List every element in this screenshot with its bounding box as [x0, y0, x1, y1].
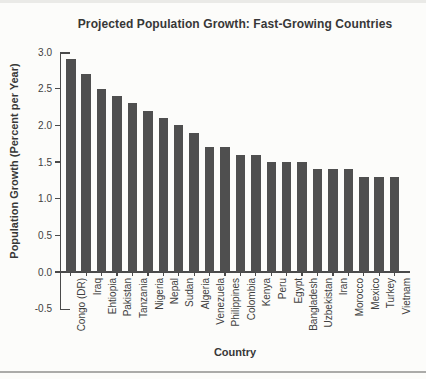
x-tick	[379, 273, 380, 276]
bar	[174, 125, 184, 272]
x-tick-label: Congo (DR)	[76, 278, 87, 331]
x-tick-label: Turkey	[385, 278, 396, 308]
x-tick	[116, 273, 117, 276]
bar	[159, 118, 169, 272]
y-tick-label: -0.5	[18, 303, 52, 314]
bar	[220, 147, 230, 272]
x-tick	[194, 273, 195, 276]
y-tick-label: 2.5	[18, 83, 52, 94]
bar	[236, 155, 246, 272]
x-tick	[163, 273, 164, 276]
x-tick-label: Ehtiopia	[107, 278, 118, 314]
x-tick-label: Iran	[338, 278, 349, 295]
y-axis-bottom-cap	[61, 309, 70, 311]
x-tick-label: Kenya	[261, 278, 272, 306]
x-tick-label: Pakistan	[123, 278, 134, 316]
x-tick	[255, 273, 256, 276]
plot-area: 3.02.52.01.51.00.50.0-0.5Congo (DR)IraqE…	[0, 0, 426, 379]
x-tick-label: Tanzania	[138, 278, 149, 318]
bar	[267, 162, 277, 272]
bar	[112, 96, 122, 272]
x-tick	[348, 273, 349, 276]
bottom-divider	[0, 371, 426, 373]
y-tick-label: 1.0	[18, 193, 52, 204]
bar	[390, 177, 400, 272]
x-tick	[286, 273, 287, 276]
x-axis-label: Country	[60, 346, 410, 358]
x-tick	[363, 273, 364, 276]
bar	[328, 169, 338, 272]
x-tick-label: Peru	[277, 278, 288, 299]
bar	[313, 169, 323, 272]
x-tick	[271, 273, 272, 276]
x-tick-label: Vietnam	[400, 278, 411, 315]
bar	[143, 111, 153, 272]
x-tick-label: Nigeria	[153, 278, 164, 310]
y-tick-label: 3.0	[18, 47, 52, 58]
bar	[374, 177, 384, 272]
x-tick	[86, 273, 87, 276]
bar	[251, 155, 261, 272]
x-tick	[178, 273, 179, 276]
x-tick	[240, 273, 241, 276]
x-tick	[394, 273, 395, 276]
x-tick	[132, 273, 133, 276]
y-tick	[55, 88, 60, 89]
y-axis-top-cap	[61, 52, 70, 54]
y-tick-label: 0.0	[18, 267, 52, 278]
y-tick	[55, 198, 60, 199]
x-tick-label: Sudan	[184, 278, 195, 307]
chart-figure: Projected Population Growth: Fast-Growin…	[0, 0, 426, 379]
x-tick	[147, 273, 148, 276]
bar	[81, 74, 91, 272]
x-tick-label: Iraq	[92, 278, 103, 295]
bar	[189, 133, 199, 272]
x-tick	[101, 273, 102, 276]
bar	[97, 89, 107, 272]
bar	[66, 59, 76, 272]
y-tick-label: 1.5	[18, 157, 52, 168]
bar	[282, 162, 292, 272]
x-tick	[209, 273, 210, 276]
y-tick	[55, 271, 60, 272]
x-tick-label: Mexico	[369, 278, 380, 310]
bar	[297, 162, 307, 272]
y-tick-label: 0.5	[18, 230, 52, 241]
x-tick	[332, 273, 333, 276]
x-tick-label: Morocco	[354, 278, 365, 316]
x-tick-label: Philippines	[231, 278, 242, 326]
x-tick	[70, 273, 71, 276]
x-tick-label: Venezuela	[215, 278, 226, 325]
bar	[128, 103, 138, 272]
y-tick	[55, 235, 60, 236]
x-tick-label: Uzbekistan	[323, 278, 334, 327]
y-tick-label: 2.0	[18, 120, 52, 131]
x-tick-label: Algeria	[200, 278, 211, 309]
bar	[359, 177, 369, 272]
y-tick	[55, 161, 60, 162]
x-tick	[317, 273, 318, 276]
bar	[344, 169, 354, 272]
x-tick-label: Bangladesh	[308, 278, 319, 331]
x-tick-label: Egypt	[292, 278, 303, 304]
y-tick	[55, 125, 60, 126]
x-tick	[224, 273, 225, 276]
bar	[205, 147, 215, 272]
x-tick	[301, 273, 302, 276]
x-tick-label: Nepal	[169, 278, 180, 304]
x-tick-label: Colombia	[246, 278, 257, 320]
